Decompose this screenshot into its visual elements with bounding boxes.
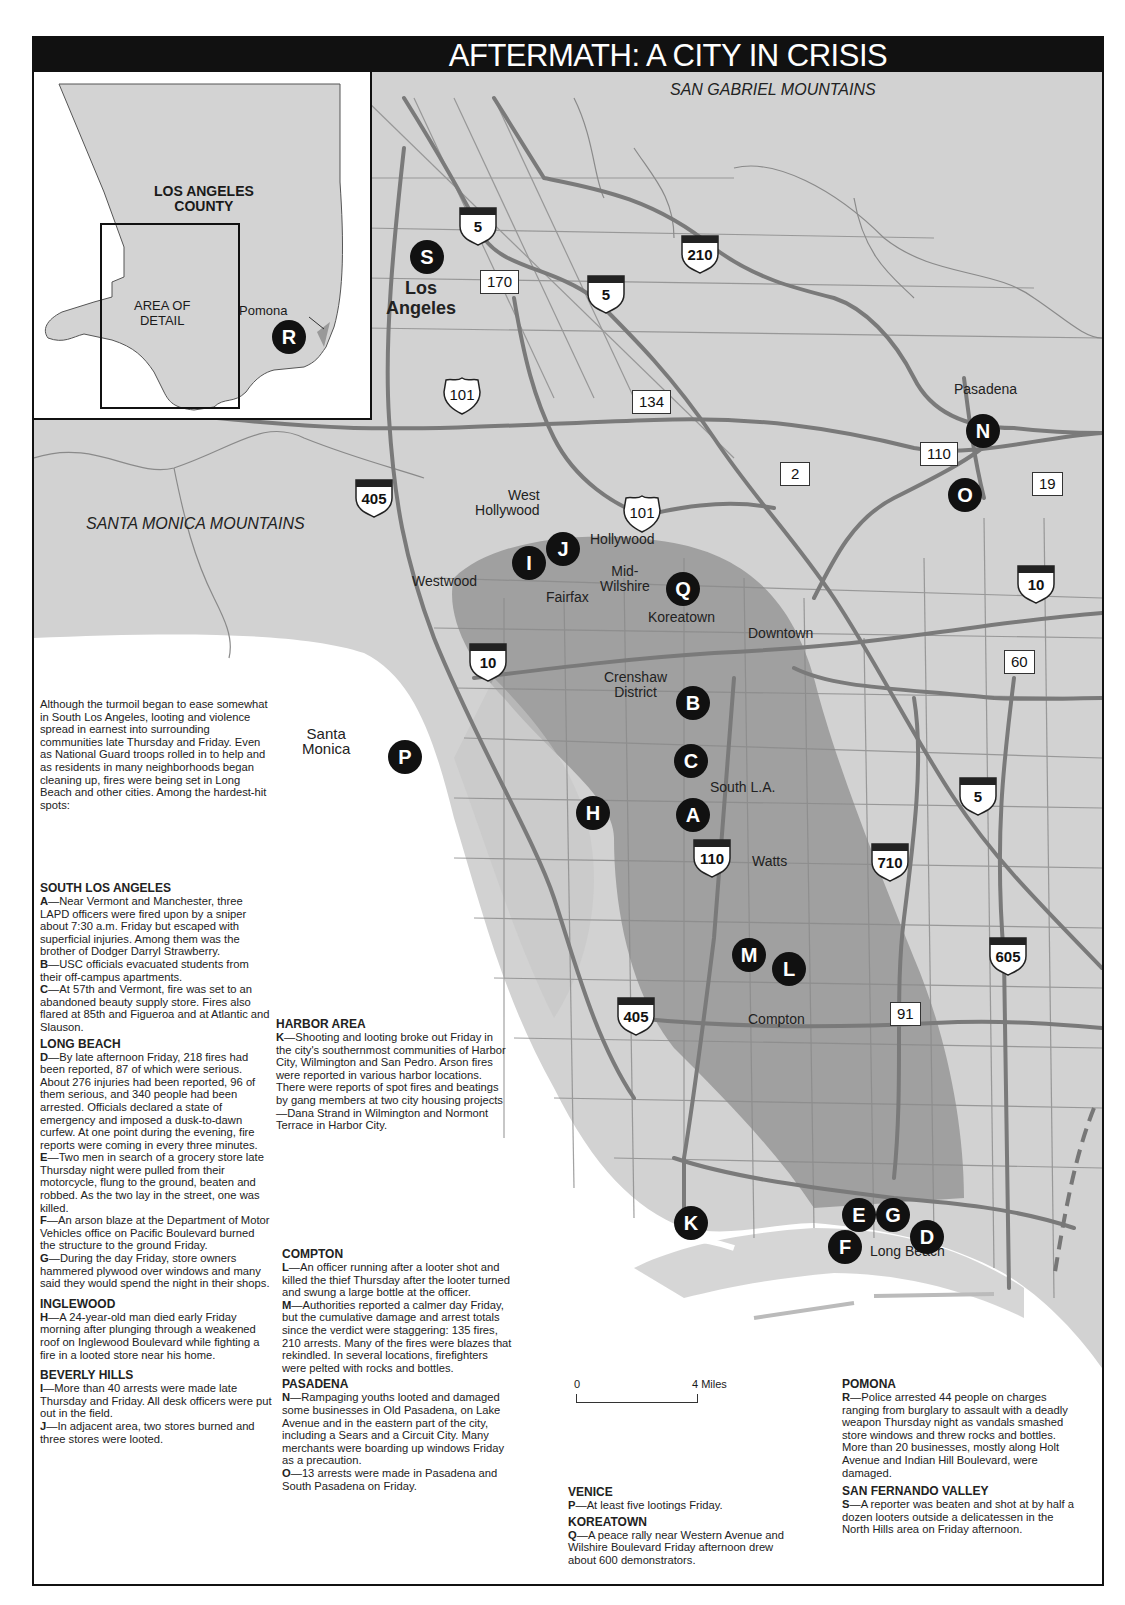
map-frame: AFTERMATH: A CITY IN CRISIS LOS ANGELES … <box>32 36 1104 1586</box>
heading-long-beach: LONG BEACH <box>40 1038 272 1051</box>
heading-pomona: POMONA <box>842 1378 1074 1391</box>
heading-compton: COMPTON <box>282 1248 514 1261</box>
entry-j: J—In adjacent area, two stores burned an… <box>40 1420 272 1445</box>
interstate-5-shield-mid: 5 <box>584 274 628 314</box>
marker-l[interactable]: L <box>772 952 806 986</box>
label-crenshaw-district: CrenshawDistrict <box>604 670 667 700</box>
marker-s[interactable]: S <box>410 240 444 274</box>
us-101-shield-north: 101 <box>440 376 484 416</box>
heading-san-fernando-valley: SAN FERNANDO VALLEY <box>842 1485 1074 1498</box>
entry-f: F—An arson blaze at the Department of Mo… <box>40 1214 272 1252</box>
la-county-outline <box>34 72 368 416</box>
entry-l: L—An officer running after a looter shot… <box>282 1261 514 1299</box>
entry-i: I—More than 40 arrests were made late Th… <box>40 1382 272 1420</box>
entry-p: P—At least five lootings Friday. <box>568 1499 792 1512</box>
heading-beverly-hills: BEVERLY HILLS <box>40 1369 272 1382</box>
interstate-110-shield: 110 <box>690 838 734 878</box>
heading-venice: VENICE <box>568 1486 792 1499</box>
intro-text: Although the turmoil began to ease somew… <box>40 698 272 811</box>
marker-k[interactable]: K <box>674 1206 708 1240</box>
inset-pomona-label: Pomona <box>239 303 287 318</box>
label-los-angeles: LosAngeles <box>386 278 456 318</box>
entry-b: B—USC officials evacuated students from … <box>40 958 272 983</box>
entry-c: C—At 57th and Vermont, fire was set to a… <box>40 983 272 1033</box>
entry-o: O—13 arrests were made in Pasadena and S… <box>282 1467 514 1492</box>
map-title: AFTERMATH: A CITY IN CRISIS <box>34 38 1102 72</box>
harbor-text: HARBOR AREA K—Shooting and looting broke… <box>276 1014 508 1132</box>
marker-j[interactable]: J <box>546 532 580 566</box>
column-venice-koreatown: VENICE P—At least five lootings Friday. … <box>568 1482 792 1566</box>
route-60-sign: 60 <box>1004 650 1035 674</box>
label-westwood: Westwood <box>412 574 477 589</box>
label-pasadena: Pasadena <box>954 382 1017 397</box>
entry-r: R—Police arrested 44 people on charges r… <box>842 1391 1074 1479</box>
marker-o[interactable]: O <box>948 478 982 512</box>
label-fairfax: Fairfax <box>546 590 589 605</box>
entry-q: Q—A peace rally near Western Avenue and … <box>568 1529 792 1567</box>
heading-inglewood: INGLEWOOD <box>40 1298 272 1311</box>
entry-k: K—Shooting and looting broke out Friday … <box>276 1031 508 1132</box>
interstate-605-shield: 605 <box>986 936 1030 976</box>
entry-e: E—Two men in search of a grocery store l… <box>40 1151 272 1214</box>
marker-f[interactable]: F <box>828 1230 862 1264</box>
entry-h: H—A 24-year-old man died early Friday mo… <box>40 1311 272 1361</box>
interstate-210-shield: 210 <box>678 234 722 274</box>
label-south-la: South L.A. <box>710 780 775 795</box>
route-110-sign: 110 <box>920 442 958 466</box>
route-2-sign: 2 <box>780 462 810 486</box>
column-middle: COMPTON L—An officer running after a loo… <box>282 1244 514 1492</box>
scale-start: 0 <box>574 1378 580 1390</box>
inset-map: LOS ANGELES COUNTY AREA OF DETAIL Pomona… <box>34 72 372 420</box>
marker-d[interactable]: D <box>910 1220 944 1254</box>
label-san-gabriel-mountains: SAN GABRIEL MOUNTAINS <box>670 82 876 97</box>
interstate-405-shield-north: 405 <box>352 478 396 518</box>
label-west-hollywood: WestHollywood <box>474 488 540 518</box>
interstate-10-shield-west: 10 <box>466 642 510 682</box>
marker-g[interactable]: G <box>876 1198 910 1232</box>
entry-d: D—By late afternoon Friday, 218 fires ha… <box>40 1051 272 1152</box>
label-compton: Compton <box>748 1012 805 1027</box>
label-mid-wilshire: Mid-Wilshire <box>600 564 650 594</box>
label-hollywood: Hollywood <box>590 532 655 547</box>
inset-area-label: AREA OF DETAIL <box>134 298 190 328</box>
route-134-sign: 134 <box>632 390 671 414</box>
interstate-405-shield-south: 405 <box>614 996 658 1036</box>
entry-n: N—Rampaging youths looted and damaged so… <box>282 1391 514 1467</box>
label-santa-monica-mountains: SANTA MONICA MOUNTAINS <box>86 516 305 531</box>
marker-i[interactable]: I <box>512 546 546 580</box>
entry-s: S—A reporter was beaten and shot at by h… <box>842 1498 1074 1536</box>
heading-pasadena: PASADENA <box>282 1378 514 1391</box>
marker-e[interactable]: E <box>842 1198 876 1232</box>
heading-south-la: SOUTH LOS ANGELES <box>40 882 272 895</box>
interstate-5-shield-south: 5 <box>956 776 1000 816</box>
heading-harbor: HARBOR AREA <box>276 1018 508 1031</box>
marker-r[interactable]: R <box>272 320 306 354</box>
entry-a: A—Near Vermont and Manchester, three LAP… <box>40 895 272 958</box>
interstate-10-shield-east: 10 <box>1014 564 1058 604</box>
entry-g: G—During the day Friday, store owners ha… <box>40 1252 272 1290</box>
scale-bar: 0 4 Miles <box>574 1378 734 1418</box>
label-downtown: Downtown <box>748 626 813 641</box>
us-101-shield-hollywood: 101 <box>620 494 664 534</box>
column-left: SOUTH LOS ANGELES A—Near Vermont and Man… <box>40 878 272 1445</box>
marker-q[interactable]: Q <box>666 572 700 606</box>
marker-b[interactable]: B <box>676 686 710 720</box>
label-koreatown: Koreatown <box>648 610 715 625</box>
inset-county-label: LOS ANGELES COUNTY <box>154 184 254 214</box>
heading-koreatown: KOREATOWN <box>568 1516 792 1529</box>
marker-p[interactable]: P <box>388 740 422 774</box>
route-91-sign: 91 <box>890 1002 921 1026</box>
marker-c[interactable]: C <box>674 744 708 778</box>
marker-m[interactable]: M <box>732 938 766 972</box>
route-19-sign: 19 <box>1032 472 1063 496</box>
marker-h[interactable]: H <box>576 796 610 830</box>
route-170-sign: 170 <box>480 270 519 294</box>
entry-m: M—Authorities reported a calmer day Frid… <box>282 1299 514 1375</box>
column-right: POMONA R—Police arrested 44 people on ch… <box>842 1374 1074 1536</box>
label-watts: Watts <box>752 854 787 869</box>
scale-end: 4 Miles <box>692 1378 727 1390</box>
marker-a[interactable]: A <box>676 798 710 832</box>
marker-n[interactable]: N <box>966 414 1000 448</box>
interstate-5-shield: 5 <box>456 206 500 246</box>
interstate-710-shield: 710 <box>868 842 912 882</box>
